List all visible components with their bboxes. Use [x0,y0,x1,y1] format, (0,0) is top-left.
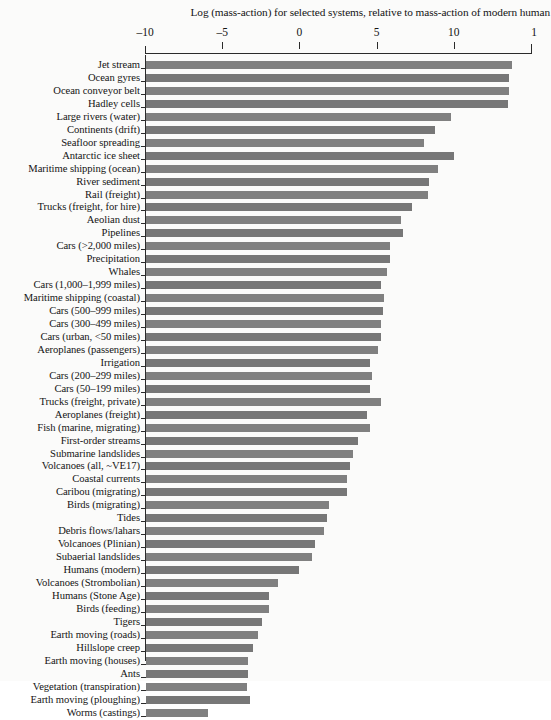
category-label: Caribou (migrating) [56,486,140,497]
category-label: Birds (migrating) [67,499,140,510]
chart-row: Earth moving (ploughing) [0,694,551,707]
category-label: Ocean gyres [88,72,140,83]
chart-row: Vegetation (transpiration) [0,681,551,694]
bar [146,359,370,367]
chart-row: Coastal currents [0,473,551,486]
bar [146,61,512,69]
category-label: Maritime shipping (coastal) [24,292,140,303]
category-label: Continents (drift) [67,124,140,135]
category-label: Trucks (freight, for hire) [38,201,140,212]
category-label: Debris flows/lahars [58,525,140,536]
bar [146,501,329,509]
bar [146,74,509,82]
bar [146,126,435,134]
x-axis-tick-mark [454,42,455,49]
chart-row: Whales [0,266,551,279]
chart-row: Cars (200–299 miles) [0,370,551,383]
bar [146,216,401,224]
chart-row: Aeolian dust [0,214,551,227]
category-label: Cars (500–999 miles) [49,305,140,316]
x-axis-tick-label: –10 [136,26,153,38]
bar [146,139,424,147]
category-label: Rail (freight) [85,189,140,200]
bar [146,333,381,341]
chart-row: Caribou (migrating) [0,486,551,499]
chart-row: Cars (300–499 miles) [0,318,551,331]
bar [146,165,438,173]
chart-row: Hillslope creep [0,642,551,655]
bar [146,657,248,665]
chart-row: Hadley cells [0,98,551,111]
bar [146,320,381,328]
x-axis-tick-mark [299,42,300,49]
category-label: Birds (feeding) [76,603,140,614]
chart-row: Seafloor spreading [0,137,551,150]
category-label: Volcanoes (Plinian) [58,538,140,549]
chart-row: Humans (Stone Age) [0,590,551,603]
category-label: Aeroplanes (passengers) [37,344,140,355]
category-label: Pipelines [102,227,140,238]
x-axis-tick-label: 0 [297,26,303,38]
bar [146,709,208,717]
x-axis-tick-mark [377,42,378,49]
category-label: Aeolian dust [87,214,140,225]
bar [146,178,429,186]
category-label: Earth moving (ploughing) [31,694,140,705]
category-label: Earth moving (roads) [50,629,140,640]
chart-row: Ocean gyres [0,72,551,85]
chart-row: Tides [0,512,551,525]
x-axis-tick-label: –5 [216,26,228,38]
chart-row: Ants [0,668,551,681]
category-label: Trucks (freight, private) [40,396,140,407]
chart-row: Cars (>2,000 miles) [0,240,551,253]
chart-row: Cars (500–999 miles) [0,305,551,318]
chart-row: Subaerial landslides [0,551,551,564]
x-axis: –10–505101 [0,26,551,56]
x-axis-left-cap [145,46,146,54]
category-label: Fish (marine, migrating) [37,422,140,433]
bar [146,346,378,354]
chart-row: Earth moving (roads) [0,629,551,642]
category-label: Hillslope creep [76,642,140,653]
category-label: Whales [109,266,140,277]
category-label: Cars (200–299 miles) [49,370,140,381]
bar [146,242,390,250]
bar [146,540,315,548]
bar [146,592,269,600]
chart-row: Volcanoes (all, ~VE17) [0,460,551,473]
bar [146,229,403,237]
chart-row: Submarine landslides [0,448,551,461]
chart-row: Worms (castings) [0,707,551,720]
bar [146,450,353,458]
chart-row: Aeroplanes (passengers) [0,344,551,357]
category-label: Submarine landslides [50,448,140,459]
category-label: Seafloor spreading [61,137,140,148]
chart-row: Trucks (freight, for hire) [0,201,551,214]
bar [146,462,350,470]
bar [146,294,384,302]
chart-title: Log (mass-action) for selected systems, … [0,6,551,18]
bar [146,113,451,121]
category-label: Humans (modern) [63,564,140,575]
bar [146,566,299,574]
x-axis-right-cap [531,44,532,54]
category-label: River sediment [76,176,140,187]
category-label: Cars (1,000–1,999 miles) [34,279,141,290]
bar [146,385,370,393]
bar [146,203,412,211]
bar [146,424,370,432]
bar [146,527,324,535]
bar [146,281,381,289]
category-label: Cars (300–499 miles) [49,318,140,329]
bar [146,255,390,263]
category-label: Vegetation (transpiration) [33,681,140,692]
chart-row: Trucks (freight, private) [0,396,551,409]
chart-row: Large rivers (water) [0,111,551,124]
category-label: Aeroplanes (freight) [55,409,140,420]
category-label: Cars (50–199 miles) [54,383,140,394]
chart-row: River sediment [0,176,551,189]
x-axis-tick-label: 10 [448,26,460,38]
bar [146,670,248,678]
chart-row: Precipitation [0,253,551,266]
